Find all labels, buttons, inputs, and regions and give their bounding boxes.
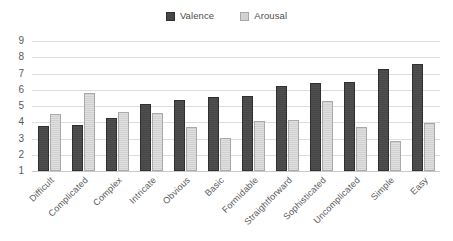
y-tick-label-8: 8 — [18, 52, 24, 62]
y-tick-label-5: 5 — [18, 101, 24, 111]
legend-label-arousal: Arousal — [254, 11, 287, 21]
x-tick-label-easy: Easy — [408, 175, 430, 197]
bar-valence-obvious — [174, 100, 185, 172]
bar-group — [168, 41, 202, 171]
chart-legend: Valence Arousal — [0, 11, 453, 21]
bar-valence-simple — [378, 69, 389, 171]
bar-group — [236, 41, 270, 171]
bar-valence-basic — [208, 97, 219, 171]
y-tick-label-6: 6 — [18, 85, 24, 95]
x-tick-slot: Intricate — [134, 171, 168, 241]
bars-container — [32, 41, 440, 171]
bar-group — [32, 41, 66, 171]
bar-group — [66, 41, 100, 171]
bar-arousal-simple — [390, 141, 401, 171]
bar-arousal-formidable — [254, 121, 265, 171]
bar-group — [338, 41, 372, 171]
bar-group — [270, 41, 304, 171]
bar-valence-formidable — [242, 96, 253, 171]
legend-label-valence: Valence — [180, 11, 214, 21]
y-tick-label-2: 2 — [18, 150, 24, 160]
bar-group — [304, 41, 338, 171]
bar-group — [202, 41, 236, 171]
plot-area — [32, 41, 440, 171]
x-tick-label-simple: Simple — [369, 175, 396, 202]
y-tick-label-9: 9 — [18, 36, 24, 46]
bar-arousal-uncomplicated — [356, 127, 367, 171]
x-tick-slot: Complex — [100, 171, 134, 241]
y-tick-label-7: 7 — [18, 69, 24, 79]
x-tick-label-basic: Basic — [203, 175, 226, 198]
bar-valence-straightforward — [276, 86, 287, 171]
bar-arousal-easy — [424, 123, 435, 171]
bar-arousal-straightforward — [288, 120, 299, 171]
y-tick-label-4: 4 — [18, 117, 24, 127]
bar-arousal-complicated — [84, 93, 95, 171]
x-tick-slot: Complicated — [66, 171, 100, 241]
y-tick-label-3: 3 — [18, 134, 24, 144]
bar-chart: Valence Arousal 987654321 DifficultCompl… — [0, 0, 453, 241]
legend-item-arousal: Arousal — [240, 11, 287, 21]
y-axis: 987654321 — [0, 41, 32, 171]
bar-arousal-obvious — [186, 127, 197, 171]
bar-valence-uncomplicated — [344, 82, 355, 171]
x-tick-label-difficult: Difficult — [27, 175, 56, 204]
bar-arousal-complex — [118, 112, 129, 171]
x-tick-slot: Obvious — [168, 171, 202, 241]
bar-group — [372, 41, 406, 171]
bar-group — [100, 41, 134, 171]
bar-group — [406, 41, 440, 171]
bar-valence-complicated — [72, 125, 83, 171]
x-axis: DifficultComplicatedComplexIntricateObvi… — [32, 171, 440, 241]
bar-valence-sophisticated — [310, 83, 321, 171]
bar-valence-intricate — [140, 104, 151, 171]
bar-arousal-difficult — [50, 114, 61, 171]
bar-valence-difficult — [38, 126, 49, 172]
bar-arousal-intricate — [152, 113, 163, 171]
bar-group — [134, 41, 168, 171]
x-tick-slot: Uncomplicated — [338, 171, 372, 241]
bar-valence-complex — [106, 118, 117, 171]
arousal-swatch-icon — [240, 12, 249, 21]
bar-valence-easy — [412, 64, 423, 171]
x-tick-slot: Easy — [406, 171, 440, 241]
bar-arousal-sophisticated — [322, 101, 333, 171]
valence-swatch-icon — [166, 12, 175, 21]
bar-arousal-basic — [220, 138, 231, 171]
legend-item-valence: Valence — [166, 11, 214, 21]
y-tick-label-1: 1 — [18, 166, 24, 176]
x-tick-slot: Simple — [372, 171, 406, 241]
